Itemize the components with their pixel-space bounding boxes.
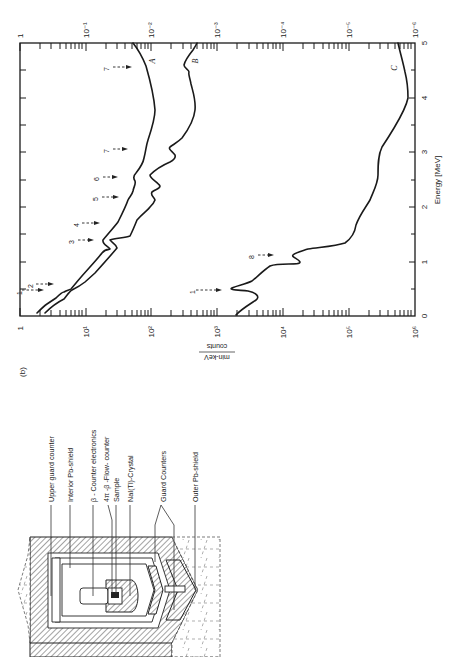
bottom-log-ticks — [20, 308, 411, 316]
beta-counter-electronics — [80, 588, 108, 604]
tick-label: 10³ — [213, 326, 222, 338]
label-beta-counter-electronics: β - Counter electronics — [89, 429, 98, 502]
label-flow-counter: 4π -β -Flow- counter — [102, 436, 111, 502]
annotation-label: 2 — [27, 284, 34, 288]
annotation-label: 7 — [103, 67, 110, 71]
label-guard-counters: Guard Counters — [159, 450, 168, 502]
energy-ticks — [20, 70, 415, 289]
annotation-label: 4 — [73, 223, 80, 227]
tick-label: 1 — [16, 325, 25, 330]
figure-canvas: 1 10¹ 10² 10³ 10⁴ 10⁵ 10⁶ 1 10⁻¹ 10⁻² 10… — [0, 0, 457, 657]
label-outer-pb-shield: Outer Pb-shield — [191, 452, 200, 502]
annotation-label: 1 — [16, 291, 23, 295]
left-scale-labels: 1 10¹ 10² 10³ 10⁴ 10⁵ 10⁶ — [16, 325, 420, 338]
tick-label: 1 — [16, 33, 25, 38]
tick-label: 10⁻⁶ — [411, 22, 420, 38]
curve-label-b: B — [191, 58, 200, 63]
energy-tick-label: 1 — [420, 259, 429, 264]
shield-diagram: Upper guard counter Interior Pb-shield β… — [18, 429, 220, 657]
annotation-8: 8 — [248, 253, 274, 259]
shield-cap — [18, 537, 30, 643]
annotation-3: 3 — [68, 238, 94, 244]
energy-tick-label: 0 — [420, 313, 429, 318]
energy-tick-label: 5 — [420, 40, 429, 45]
tick-label: 10⁻² — [147, 22, 156, 38]
right-scale-labels: 1 10⁻¹ 10⁻² 10⁻³ 10⁻⁴ 10⁻⁵ 10⁻⁶ — [16, 21, 420, 38]
energy-tick-label: 3 — [420, 149, 429, 154]
label-sample: Sample — [112, 478, 121, 502]
panel-label: (b) — [18, 367, 27, 377]
curve-label-c: C — [390, 65, 399, 71]
tick-label: 10⁴ — [279, 325, 288, 338]
curve-label-a: A — [148, 58, 157, 64]
annotation-label: 6 — [93, 177, 100, 181]
upper-guard-counter — [52, 558, 60, 622]
tick-label: 10⁻³ — [213, 22, 222, 38]
annotation-6: 6 — [93, 175, 118, 181]
spectrum-chart: 1 10¹ 10² 10³ 10⁴ 10⁵ 10⁶ 1 10⁻¹ 10⁻² 10… — [16, 21, 442, 377]
annotation-7b: 7 — [103, 65, 132, 71]
counts-axis-title-text: min-keV — [204, 354, 230, 361]
tick-label: 10² — [147, 326, 156, 338]
annotation-label: 7 — [103, 149, 110, 153]
top-log-ticks — [20, 43, 411, 51]
curve-b — [45, 43, 197, 313]
tick-label: 10⁻⁴ — [279, 21, 288, 38]
curve-c — [231, 43, 408, 315]
energy-tick-label: 2 — [420, 204, 429, 209]
annotation-4: 4 — [73, 221, 100, 227]
annotation-label: 5 — [92, 197, 99, 201]
label-interior-pb-shield: Interior Pb-shield — [66, 448, 75, 502]
tick-label: 10¹ — [82, 326, 91, 338]
chart-frame — [20, 43, 415, 316]
annotation-1c: 1 — [189, 288, 222, 294]
peak-annotations: 1 2 3 4 5 — [16, 65, 274, 295]
label-nai-crystal: NaI(Tl)-Crystal — [126, 455, 135, 502]
annotation-5: 5 — [92, 195, 119, 201]
annotation-2: 2 — [27, 282, 54, 288]
annotation-label: 8 — [248, 255, 255, 259]
energy-tick-labels: 0 1 2 3 4 5 — [420, 40, 429, 318]
annotation-7a: 7 — [103, 147, 128, 153]
tick-label: 10⁵ — [345, 326, 354, 338]
energy-tick-label: 4 — [420, 95, 429, 100]
tick-label: 10⁻⁵ — [345, 22, 354, 38]
tick-label: 10⁶ — [411, 326, 420, 338]
tick-label: 10⁻¹ — [82, 22, 91, 38]
guard-stem — [165, 586, 185, 592]
energy-axis-title: Energy [MeV] — [433, 156, 442, 204]
annotation-label: 3 — [68, 240, 75, 244]
counts-axis-title: min-keV counts — [199, 343, 235, 361]
log-ticks — [20, 43, 415, 316]
diagram-labels: Upper guard counter Interior Pb-shield β… — [47, 429, 200, 502]
counts-axis-title-numerator: counts — [206, 343, 227, 350]
label-upper-guard-counter: Upper guard counter — [47, 435, 56, 502]
annotation-label: 1 — [189, 290, 196, 294]
